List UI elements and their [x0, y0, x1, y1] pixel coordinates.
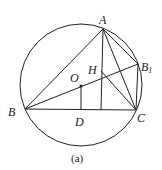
segment-HC	[101, 71, 136, 110]
geometry-diagram: A B C B1 O H D (a)	[0, 0, 162, 170]
point-O-dot	[79, 84, 82, 87]
segment-AC	[103, 29, 136, 110]
segment-AB1	[103, 29, 138, 64]
label-C: C	[137, 111, 146, 125]
altitude-from-A	[101, 29, 103, 110]
label-H: H	[87, 63, 98, 77]
figure-caption: (a)	[71, 152, 84, 165]
label-D: D	[74, 115, 84, 129]
label-B1-subscript: 1	[148, 66, 152, 75]
label-A: A	[98, 13, 107, 27]
label-O: O	[70, 71, 79, 85]
segment-B1C	[136, 64, 138, 110]
segment-BC	[25, 109, 136, 110]
label-B1: B1	[141, 60, 152, 75]
label-B: B	[8, 105, 16, 119]
